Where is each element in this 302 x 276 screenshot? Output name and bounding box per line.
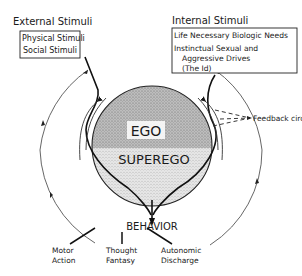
internal-item-id: (The Id)	[182, 64, 212, 73]
internal-title: Internal Stimuli	[172, 15, 248, 26]
output-thought-line1: Thought	[105, 246, 137, 255]
psyche-diagram: External Stimuli Physical Stimuli Social…	[0, 0, 302, 276]
internal-item-aggressive: Aggressive Drives	[182, 54, 250, 63]
output-autonomic-line2: Discharge	[161, 256, 199, 265]
ego-label: EGO	[131, 123, 162, 139]
feedback-label: Feedback circuit	[253, 114, 302, 123]
output-motor-line1: Motor	[52, 246, 75, 255]
superego-label: SUPEREGO	[118, 152, 189, 167]
output-motor-line2: Action	[52, 256, 76, 265]
external-title: External Stimuli	[13, 16, 92, 27]
external-item-physical: Physical Stimuli	[22, 34, 85, 43]
internal-item-biologic: Life Necessary Biologic Needs	[174, 31, 288, 40]
output-autonomic-line1: Autonomic	[161, 246, 201, 255]
output-thought-line2: Fantasy	[106, 256, 135, 265]
feedback-arrowhead	[247, 116, 252, 120]
external-item-social: Social Stimuli	[23, 46, 77, 55]
internal-item-instinctual: Instinctual Sexual and	[174, 44, 258, 53]
feedback-dashes	[213, 110, 250, 126]
